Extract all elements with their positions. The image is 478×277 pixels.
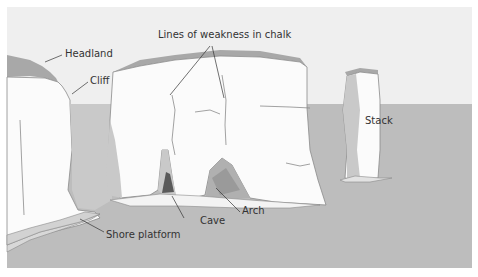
label-headland: Headland — [65, 49, 113, 59]
coastal-landforms-diagram: Headland Cliff Lines of weakness in chal… — [0, 0, 478, 277]
label-cliff: Cliff — [90, 76, 109, 86]
cliff-shadow — [70, 104, 112, 210]
diagram-illustration — [0, 0, 478, 277]
label-lines-of-weakness: Lines of weakness in chalk — [158, 30, 291, 40]
label-shore-platform: Shore platform — [106, 230, 181, 240]
label-cave: Cave — [200, 216, 225, 226]
label-arch: Arch — [242, 206, 265, 216]
label-stack: Stack — [365, 116, 393, 126]
